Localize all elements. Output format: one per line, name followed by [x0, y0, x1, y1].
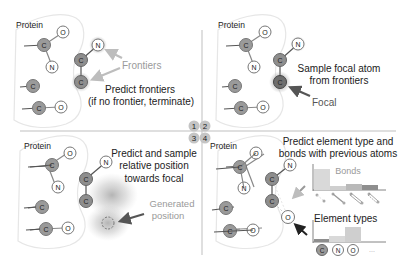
svg-text:N: N — [287, 162, 292, 169]
svg-text:O: O — [260, 104, 266, 111]
frontiers-label: Frontiers — [122, 60, 161, 71]
svg-text:N: N — [251, 64, 256, 71]
svg-text:C: C — [43, 226, 48, 233]
svg-text:...: ... — [369, 246, 375, 253]
frontier-arrow — [96, 68, 120, 78]
panel-4: C O N C C O C C N O Bonds — [210, 136, 397, 256]
svg-text:C: C — [269, 198, 274, 205]
svg-text:C: C — [277, 79, 282, 86]
svg-text:C: C — [243, 42, 248, 49]
position-distribution-cloud — [86, 205, 130, 241]
panel-1: C O N C C O C C N Frontiers Protein Pred… — [14, 15, 194, 128]
svg-text:O: O — [262, 29, 268, 36]
svg-text:C: C — [83, 198, 88, 205]
protein-label: Protein — [218, 20, 245, 30]
diagram-canvas: C O N C C O C C N Frontiers Protein Pred… — [0, 0, 412, 274]
element-arrow — [298, 227, 307, 235]
element-types-label: Element types — [314, 213, 377, 224]
protein-label: Protein — [16, 20, 43, 30]
focal-arrow — [294, 89, 310, 96]
svg-text:C: C — [232, 83, 237, 90]
svg-text:C: C — [41, 42, 46, 49]
svg-text:O: O — [350, 247, 355, 254]
caption-line: Predict element type and — [283, 136, 394, 147]
svg-text:C: C — [223, 205, 228, 212]
svg-text:C: C — [49, 162, 54, 169]
bonds-arrow — [296, 186, 305, 195]
svg-text:C: C — [320, 247, 325, 254]
svg-text:O: O — [285, 214, 291, 221]
caption-line: relative position — [119, 160, 188, 171]
step-badge-4: 4 — [203, 134, 208, 143]
svg-text:O: O — [60, 29, 66, 36]
caption-line: Predict and sample — [111, 148, 197, 159]
step-badges: 1 2 3 4 — [189, 121, 211, 144]
caption-line: towards focal — [125, 173, 184, 184]
bonds-chart: Bonds — [313, 164, 386, 205]
svg-text:O: O — [58, 104, 64, 111]
caption-line: Sample focal atom — [298, 63, 381, 74]
svg-text:C: C — [78, 79, 83, 86]
generated-label: Generated — [150, 198, 195, 209]
protein-label: Protein — [24, 141, 51, 151]
svg-text:C: C — [269, 176, 274, 183]
svg-text:N: N — [49, 64, 54, 71]
svg-text:N: N — [103, 159, 108, 166]
caption-line: from frontiers — [310, 75, 369, 86]
svg-text:C: C — [227, 228, 232, 235]
bonds-label: Bonds — [335, 166, 361, 176]
svg-text:O: O — [253, 150, 259, 157]
element-types-chart: Element types C N O ... — [313, 213, 386, 256]
step-badge-2: 2 — [203, 122, 208, 131]
step-badge-3: 3 — [192, 134, 197, 143]
svg-text:C: C — [78, 57, 83, 64]
frontier-arrow — [110, 52, 122, 58]
svg-text:O: O — [250, 227, 256, 234]
generated-label: position — [152, 210, 185, 221]
svg-text:N: N — [241, 185, 246, 192]
caption-line: Predict frontiers — [105, 84, 175, 95]
svg-text:C: C — [238, 105, 243, 112]
svg-text:C: C — [83, 176, 88, 183]
step-badge-1: 1 — [192, 122, 197, 131]
protein-label: Protein — [210, 141, 237, 151]
svg-text:N: N — [295, 41, 300, 48]
svg-text:N: N — [336, 247, 341, 254]
svg-text:N: N — [55, 184, 60, 191]
panel-3: C O N C C O C C N Generated position Pro… — [18, 136, 197, 249]
svg-text:O: O — [67, 150, 73, 157]
svg-text:C: C — [237, 164, 242, 171]
svg-text:C: C — [36, 105, 41, 112]
caption-line: (if no frontier, terminate) — [88, 96, 194, 107]
panel-2: C O N C C O C C N Focal Protein Sample f… — [208, 0, 380, 127]
focal-label: Focal — [312, 97, 336, 108]
caption-line: bonds with previous atoms — [279, 148, 397, 159]
svg-text:C: C — [39, 204, 44, 211]
svg-text:C: C — [30, 83, 35, 90]
svg-text:N: N — [95, 42, 100, 49]
svg-text:O: O — [65, 225, 71, 232]
svg-text:C: C — [277, 57, 282, 64]
